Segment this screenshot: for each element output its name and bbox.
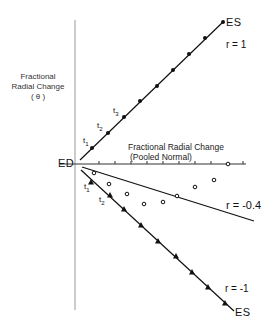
- time-label-lower-t2: t2: [99, 196, 105, 206]
- origin-label: ED: [58, 158, 74, 169]
- x-axis-label-line1: Fractional Radial Change: [128, 142, 224, 152]
- r-neg1-markers: [88, 179, 228, 306]
- x-axis-label: Fractional Radial Change (Pooled Normal): [128, 142, 224, 162]
- y-axis-label: Fractional Radial Change ( θ ): [2, 72, 74, 102]
- time-label-lower-t1: t1: [84, 183, 90, 193]
- r-pos1-label: r = 1: [226, 40, 246, 50]
- time-label-upper-t3: t3: [113, 107, 119, 117]
- lower-end-label: ES: [235, 307, 250, 318]
- upper-end-label: ES: [226, 17, 241, 28]
- t-sub: 3: [115, 111, 118, 117]
- time-label-upper-t1: t1: [83, 137, 89, 147]
- t-sub: 1: [85, 141, 88, 147]
- t-sub: 2: [99, 126, 102, 132]
- y-axis-label-line3: ( θ ): [2, 92, 74, 102]
- t-sub: 1: [86, 187, 89, 193]
- r-neg1-label: r = -1: [225, 284, 249, 294]
- time-label-upper-t2: t2: [97, 122, 103, 132]
- t-sub: 2: [101, 200, 104, 206]
- line-r-pos1: [80, 22, 223, 160]
- y-axis-label-line1: Fractional: [2, 72, 74, 82]
- y-axis-label-line2: Radial Change: [2, 82, 74, 92]
- x-axis-label-line2: (Pooled Normal): [128, 152, 224, 162]
- r-neg04-label: r = -0.4: [226, 200, 261, 211]
